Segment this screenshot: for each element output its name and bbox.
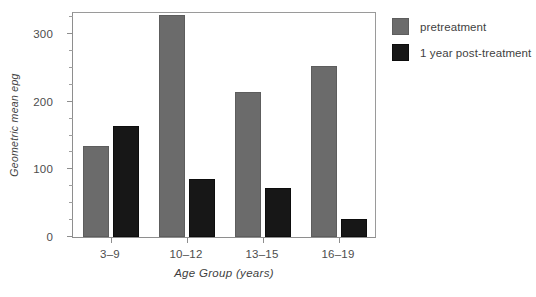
x-axis-category-label: 13–15: [246, 248, 279, 260]
x-axis-title: Age Group (years): [72, 267, 376, 279]
legend-item-post-treatment: 1 year post-treatment: [392, 44, 532, 61]
bar-pretreatment: [83, 146, 109, 237]
y-axis-minor-tick: [69, 16, 73, 17]
y-axis-minor-tick: [69, 118, 73, 119]
x-axis-category-label: 10–12: [170, 248, 203, 260]
pretreatment-swatch: [392, 18, 409, 35]
y-axis-tick: [67, 33, 73, 34]
y-axis-tick: [67, 168, 73, 169]
plot-area: 0100200300: [72, 12, 376, 238]
y-axis-tick-label: 0: [46, 231, 53, 243]
y-axis-tick-label: 300: [33, 28, 53, 40]
bar-pretreatment: [311, 66, 337, 237]
post-treatment-swatch: [392, 44, 409, 61]
x-axis-tick: [187, 237, 188, 243]
y-axis-minor-tick: [69, 50, 73, 51]
chart-legend: pretreatment 1 year post-treatment: [392, 18, 532, 70]
bar-pretreatment: [159, 15, 185, 237]
x-axis-category-label: 16–19: [322, 248, 355, 260]
y-axis-tick: [67, 101, 73, 102]
x-axis-tick: [263, 237, 264, 243]
bar-post-treatment: [113, 126, 139, 237]
y-axis-minor-tick: [69, 185, 73, 186]
y-axis-minor-tick: [69, 219, 73, 220]
x-axis-tick: [339, 237, 340, 243]
legend-label-post-treatment: 1 year post-treatment: [420, 47, 531, 59]
y-axis-minor-tick: [69, 202, 73, 203]
y-axis-minor-tick: [69, 151, 73, 152]
bar-pretreatment: [235, 92, 261, 237]
legend-label-pretreatment: pretreatment: [420, 21, 486, 33]
y-axis-minor-tick: [69, 84, 73, 85]
y-axis-tick-label: 200: [33, 96, 53, 108]
y-axis-minor-tick: [69, 135, 73, 136]
y-axis-title: Geometric mean epg: [8, 73, 20, 176]
legend-item-pretreatment: pretreatment: [392, 18, 532, 35]
y-axis-minor-tick: [69, 67, 73, 68]
x-axis-tick: [111, 237, 112, 243]
y-axis-tick: [67, 236, 73, 237]
bar-post-treatment: [265, 188, 291, 237]
bar-post-treatment: [189, 179, 215, 237]
y-axis-tick-label: 100: [33, 163, 53, 175]
x-axis-category-label: 3–9: [100, 248, 120, 260]
bar-post-treatment: [341, 219, 367, 237]
bar-chart-figure: 0100200300 Age Group (years) Geometric m…: [0, 0, 536, 297]
